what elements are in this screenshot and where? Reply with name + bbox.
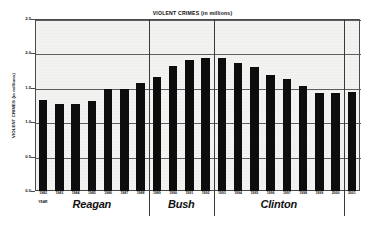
y-tick-label: 1.0 bbox=[19, 120, 31, 124]
bar bbox=[185, 60, 193, 191]
bar bbox=[348, 92, 356, 191]
violent-crimes-bar-chart: VIOLENT CRIMES (in millions) VIOLENT CRI… bbox=[0, 0, 385, 234]
term-separator bbox=[214, 19, 215, 216]
y-tick-label: 0.0 bbox=[19, 189, 31, 193]
term-separator bbox=[344, 19, 345, 216]
x-tick-label: 2001 bbox=[342, 192, 362, 196]
y-tick-label: 0.5 bbox=[19, 155, 31, 159]
y-axis-title: VIOLENT CRIMES (in millions) bbox=[11, 51, 16, 161]
president-label-clinton: Clinton bbox=[229, 198, 329, 210]
bar bbox=[136, 83, 144, 191]
bar bbox=[153, 77, 161, 191]
bars-container bbox=[35, 19, 360, 191]
bar bbox=[331, 93, 339, 191]
bar bbox=[120, 89, 128, 191]
bar bbox=[266, 75, 274, 191]
bar bbox=[299, 86, 307, 191]
bar bbox=[55, 104, 63, 191]
bar bbox=[104, 89, 112, 192]
president-label-bush: Bush bbox=[131, 198, 231, 210]
y-tick-label: 2.5 bbox=[19, 17, 31, 21]
bar bbox=[315, 93, 323, 191]
bar bbox=[88, 101, 96, 191]
year-axis-caption: YEAR bbox=[38, 200, 47, 204]
bar bbox=[201, 58, 209, 191]
term-separator bbox=[149, 19, 150, 216]
chart-title: VIOLENT CRIMES (in millions) bbox=[0, 10, 385, 16]
bar bbox=[234, 63, 242, 191]
bar bbox=[250, 67, 258, 191]
y-tick-label: 2.0 bbox=[19, 51, 31, 55]
bar bbox=[39, 100, 47, 191]
bar bbox=[218, 58, 226, 191]
president-label-reagan: Reagan bbox=[42, 198, 142, 210]
bar bbox=[283, 79, 291, 191]
y-tick-label: 1.5 bbox=[19, 86, 31, 90]
bar bbox=[71, 104, 79, 191]
bar bbox=[169, 66, 177, 191]
